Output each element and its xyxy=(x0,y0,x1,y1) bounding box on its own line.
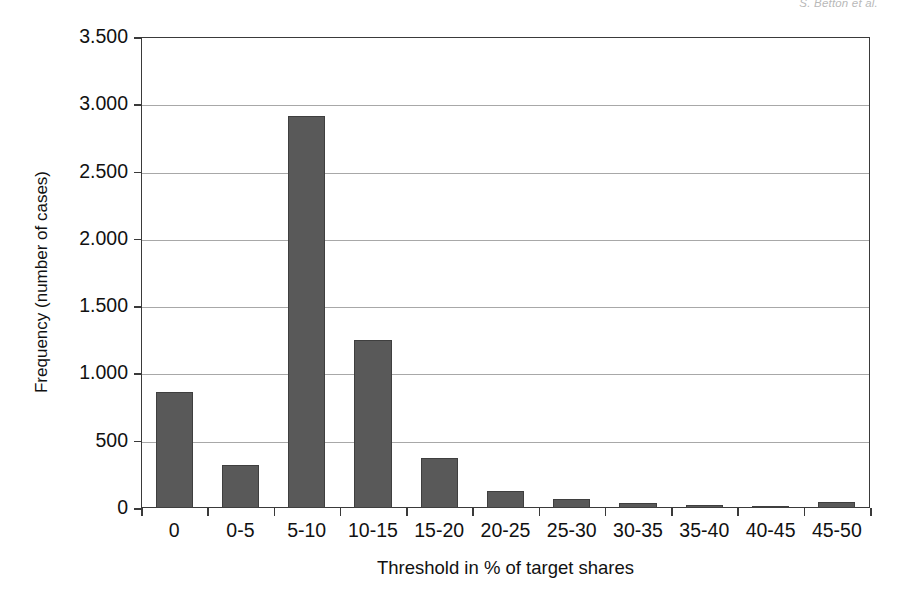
x-axis-tick xyxy=(605,508,607,516)
x-axis-tick xyxy=(539,508,541,516)
x-axis-tick xyxy=(737,508,739,516)
y-axis-tick xyxy=(134,441,141,443)
x-axis-tick xyxy=(141,508,143,516)
y-axis-tick-label: 2.500 xyxy=(44,162,128,182)
x-axis-tick xyxy=(406,508,408,516)
figure-page: S. Betton et al. 05001.0001.5002.0002.50… xyxy=(0,0,900,599)
bar xyxy=(156,392,193,508)
histogram-chart: 05001.0001.5002.0002.5003.0003.500 Frequ… xyxy=(0,0,900,599)
bar xyxy=(553,499,590,508)
y-axis-title: Frequency (number of cases) xyxy=(32,122,52,442)
y-axis-tick xyxy=(134,508,141,510)
y-axis-tick-label: 1.500 xyxy=(44,296,128,316)
x-axis-tick-label: 35-40 xyxy=(671,521,737,541)
bar xyxy=(619,503,656,508)
bar xyxy=(818,502,855,508)
y-axis-tick-label: 3.500 xyxy=(44,27,128,47)
x-axis-tick xyxy=(207,508,209,516)
bar xyxy=(288,116,325,508)
x-axis-tick xyxy=(472,508,474,516)
x-axis-tick xyxy=(804,508,806,516)
y-axis-tick xyxy=(134,306,141,308)
bar xyxy=(222,465,259,508)
x-axis-tick xyxy=(340,508,342,516)
y-axis-tick xyxy=(134,37,141,39)
x-axis-tick-label: 20-25 xyxy=(472,521,538,541)
x-axis-tick-label: 45-50 xyxy=(804,521,870,541)
x-axis-title: Threshold in % of target shares xyxy=(141,557,870,579)
x-axis-tick xyxy=(671,508,673,516)
x-axis-tick-label: 0 xyxy=(141,521,207,541)
x-axis-tick-label: 30-35 xyxy=(605,521,671,541)
x-axis-tick-label: 10-15 xyxy=(340,521,406,541)
y-axis-tick-label: 1.000 xyxy=(44,363,128,383)
x-axis-tick-label: 5-10 xyxy=(274,521,340,541)
x-axis-tick-label: 15-20 xyxy=(406,521,472,541)
x-axis-tick-label: 0-5 xyxy=(207,521,273,541)
bar xyxy=(354,340,391,508)
y-axis-tick-label: 2.000 xyxy=(44,229,128,249)
bar xyxy=(487,491,524,508)
y-axis-tick xyxy=(134,172,141,174)
y-axis-tick-label: 500 xyxy=(44,431,128,451)
x-axis-tick xyxy=(274,508,276,516)
bar xyxy=(686,505,723,508)
x-axis-tick-label: 40-45 xyxy=(737,521,803,541)
y-axis-tick xyxy=(134,239,141,241)
bar xyxy=(752,506,789,508)
bars-layer xyxy=(141,37,870,508)
y-axis-tick-label: 0 xyxy=(44,498,128,518)
y-axis-tick-label: 3.000 xyxy=(44,94,128,114)
bar xyxy=(421,458,458,508)
x-axis-tick xyxy=(870,508,872,516)
y-axis-tick xyxy=(134,104,141,106)
y-axis-tick xyxy=(134,373,141,375)
x-axis-tick-label: 25-30 xyxy=(539,521,605,541)
